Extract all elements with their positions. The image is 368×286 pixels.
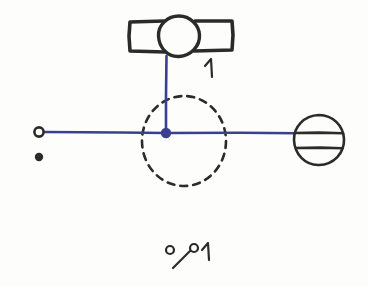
junction-node-dot (161, 128, 171, 138)
valve-body-circle-icon (158, 16, 199, 57)
legend-label-1 (202, 243, 209, 260)
legend-label-text: 1 (200, 242, 201, 243)
valve-label-text: 1 (203, 58, 204, 59)
diagram-canvas: 1 1 (0, 0, 368, 286)
banded-ellipse-outline-icon (294, 115, 344, 165)
legend-left-open-circle-icon (166, 246, 174, 254)
dashed-boundary-circle (142, 96, 226, 186)
vertical-connector-wire (166, 56, 167, 133)
valve-label-1 (205, 59, 212, 77)
wire-boundary-crossing-mark (225, 132, 228, 135)
legend-pivot-circle-icon (190, 244, 198, 252)
gate-valve-symbol (129, 16, 233, 57)
left-open-terminal-icon (34, 127, 43, 136)
left-filled-dot-icon (35, 153, 43, 161)
banded-ellipse-band-upper-icon (295, 133, 343, 134)
legend-switch-symbol (166, 243, 209, 268)
banded-ellipse-band-lower-icon (296, 148, 342, 149)
schematic-drawing (0, 0, 368, 286)
legend-switch-blade-icon (173, 250, 191, 268)
banded-ellipse-symbol (294, 115, 344, 165)
